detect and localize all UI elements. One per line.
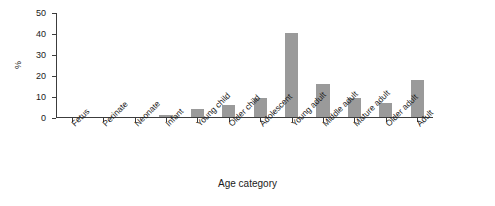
y-axis-tick-label: 0 — [41, 114, 46, 123]
y-axis-tick-label: 20 — [36, 72, 46, 81]
bar-chart-figure: % 01020304050 FetusPerinateNeonateInfant… — [0, 0, 495, 206]
x-axis-title: Age category — [0, 178, 495, 189]
x-axis-tick-labels: FetusPerinateNeonateInfantYoung childOld… — [56, 120, 495, 175]
y-axis-tick-mark — [52, 34, 56, 35]
y-axis-tick-label: 30 — [36, 51, 46, 60]
y-axis-tick-mark — [52, 76, 56, 77]
y-axis-tick-labels: 01020304050 — [22, 8, 46, 123]
y-axis-tick-mark — [52, 55, 56, 56]
y-axis-tick-mark — [52, 97, 56, 98]
y-axis-tick-label: 40 — [36, 30, 46, 39]
y-axis-tick-label: 10 — [36, 93, 46, 102]
y-axis-tick-mark — [52, 118, 56, 119]
y-axis-tick-label: 50 — [36, 9, 46, 18]
y-axis-tick-mark — [52, 13, 56, 14]
